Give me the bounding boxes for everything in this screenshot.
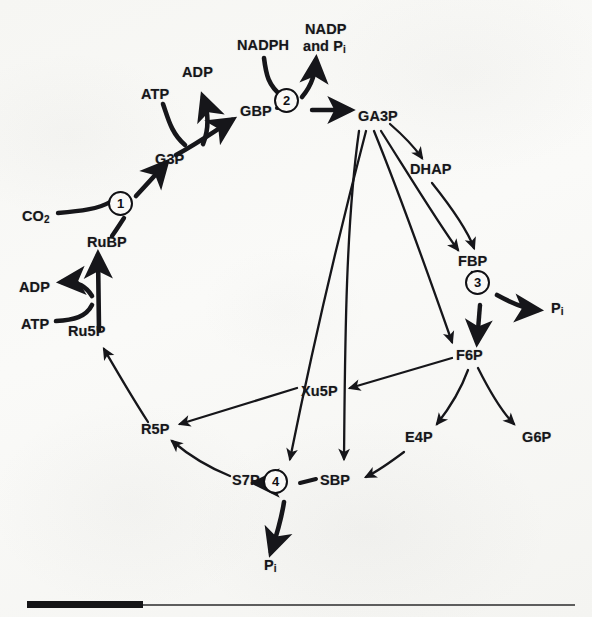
- arrow-ru5p-to-rubp: [98, 255, 99, 330]
- arrow-f6p-to-e4p: [437, 370, 468, 424]
- label-rubp: RuBP: [87, 235, 127, 250]
- arrow-ga3p-to-s7p: [290, 131, 366, 459]
- label-adp-left: ADP: [19, 280, 50, 295]
- arrow-atp-into-g3p-gbp: [163, 104, 185, 145]
- arrow-atp-into-ru5p-rubp: [56, 305, 92, 321]
- arrow-enzyme3-to-f6p: [477, 305, 480, 342]
- footer-black-bar: [27, 601, 143, 608]
- label-s7p: S7P: [232, 473, 260, 488]
- label-xu5p: Xu5P: [301, 384, 338, 399]
- label-nadp-and-pi: and Pi: [303, 39, 346, 56]
- arrow-enzyme3-to-pi: [497, 295, 538, 310]
- enzyme-node-2: 2: [274, 88, 299, 113]
- arrow-ga3p-to-fbp-direct: [381, 131, 458, 250]
- label-atp-top: ATP: [141, 87, 169, 102]
- label-e4p: E4P: [405, 430, 433, 445]
- label-co2: CO2: [22, 209, 50, 226]
- label-adp-top: ADP: [182, 65, 213, 80]
- label-pi-enzyme3: Pi: [551, 301, 564, 318]
- label-ga3p: GA3P: [358, 109, 398, 124]
- label-fbp: FBP: [458, 254, 487, 269]
- arrow-f6p-to-xu5p: [350, 358, 452, 388]
- arrow-enzyme1-to-g3p: [136, 163, 166, 196]
- arrow-nadp-pi-out-of-enzyme2: [302, 60, 316, 97]
- arrow-r5p-to-ru5p: [104, 349, 148, 422]
- arrow-s7p-to-r5p: [172, 441, 230, 476]
- label-ru5p: Ru5P: [68, 324, 105, 339]
- label-nadp: NADP: [305, 22, 347, 37]
- label-f6p: F6P: [456, 348, 483, 363]
- arrow-adp-out-of-ru5p-rubp: [62, 282, 92, 296]
- label-atp-left: ATP: [21, 317, 49, 332]
- arrow-adp-out-of-g3p-gbp: [203, 97, 208, 144]
- arrow-xu5p-to-r5p: [180, 388, 297, 424]
- label-gbp: GBP: [240, 104, 272, 119]
- label-dhap: DHAP: [410, 162, 452, 177]
- enzyme-node-3: 3: [465, 270, 490, 295]
- enzyme-node-4: 4: [263, 469, 288, 494]
- arrow-co2-to-enzyme1: [58, 202, 110, 213]
- arrow-f6p-to-g6p: [478, 368, 514, 424]
- label-sbp: SBP: [320, 473, 350, 488]
- arrow-dhap-to-fbp: [432, 183, 474, 248]
- label-g3p: G3P: [155, 152, 184, 167]
- label-nadph: NADPH: [237, 38, 289, 53]
- label-pi-enzyme4: Pi: [264, 558, 277, 575]
- label-g6p: G6P: [522, 430, 551, 445]
- arrow-enzyme4-to-pi: [271, 502, 284, 552]
- label-r5p: R5P: [141, 422, 170, 437]
- calvin-cycle-figure: CO2 RuBP G3P ATP ADP GBP NADPH NADP and …: [0, 0, 592, 617]
- arrow-ga3p-to-sbp: [344, 131, 359, 459]
- enzyme-node-1: 1: [108, 191, 133, 216]
- arrow-e4p-to-sbp: [366, 452, 404, 477]
- connector-sbp-to-enzyme4: [300, 479, 316, 483]
